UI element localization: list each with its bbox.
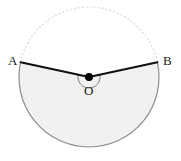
circle-sector-figure: A B O	[0, 0, 181, 161]
geometry-canvas	[0, 0, 181, 161]
center-point-dot	[85, 73, 93, 81]
vertex-label-a: A	[8, 54, 17, 67]
center-label-o: O	[84, 84, 93, 97]
minor-arc-dotted	[21, 7, 158, 62]
vertex-label-b: B	[163, 54, 172, 67]
